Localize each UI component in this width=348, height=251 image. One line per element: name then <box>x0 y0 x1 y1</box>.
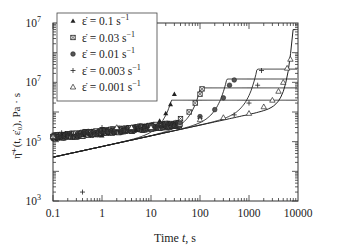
y-tick-label: 107 <box>26 74 42 88</box>
x-tick-label: 0.1 <box>46 207 61 219</box>
x-tick-label: 10000 <box>284 207 313 219</box>
y-tick-label: 107 <box>26 15 42 29</box>
x-tick-label: 100 <box>191 207 209 219</box>
y-axis-label: η̄⁺(t, ε̇₀), Pa · s <box>10 93 23 159</box>
legend-label: ε̇ = 0.001 s−1 <box>82 79 141 93</box>
legend-item: ε̇ = 0.003 s−1 <box>71 63 141 77</box>
y-tick-label: 105 <box>26 134 42 148</box>
x-tick-label: 1 <box>99 207 105 219</box>
legend: ε̇ = 0.1 s−1ε̇ = 0.03 s−1ε̇ = 0.01 s−1ε̇… <box>57 13 157 101</box>
data-band <box>51 120 183 141</box>
x-axis-label: Time t, s <box>154 231 196 245</box>
chart: 0.1110100100010000103105107107 ε̇ = 0.1 … <box>0 0 348 251</box>
y-tick-label: 103 <box>26 193 42 207</box>
legend-label: ε̇ = 0.003 s−1 <box>82 63 141 77</box>
x-tick-label: 10 <box>145 207 157 219</box>
x-tick-label: 1000 <box>238 207 261 219</box>
